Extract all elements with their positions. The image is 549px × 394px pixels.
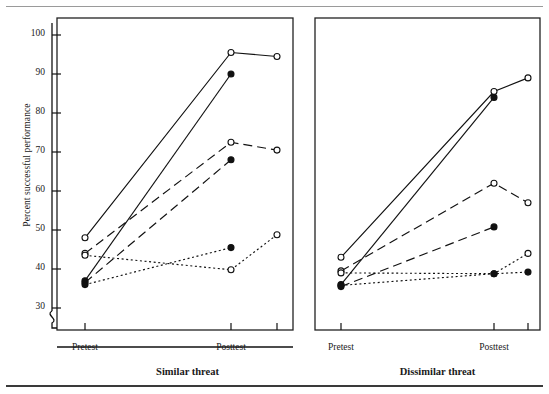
y-tick-label-90: 90 xyxy=(19,67,45,77)
data-point-dotted-filled-1-0 xyxy=(82,282,88,288)
y-tick-label-60: 60 xyxy=(19,184,45,194)
data-point-solid-open-1-2 xyxy=(274,54,280,60)
y-tick-label-30: 30 xyxy=(19,301,45,311)
data-point-dotted-filled-2-0 xyxy=(338,282,344,288)
data-point-solid-filled-1-1 xyxy=(228,71,234,77)
panel-frame-0 xyxy=(57,18,293,330)
data-point-dotted-filled-1-1 xyxy=(228,245,234,251)
figure-container: Percent successful performance 304050607… xyxy=(0,0,549,394)
series-line-dotted-filled-2 xyxy=(341,272,528,285)
panel-caption-dissimilar: Dissimilar threat xyxy=(330,366,545,377)
data-point-dashed-filled-1-1 xyxy=(228,157,234,163)
data-point-dotted-open-1-2 xyxy=(274,232,280,238)
data-point-solid-filled-2-1 xyxy=(491,94,497,100)
x-tick-label-p0-1: Posttest xyxy=(201,342,261,352)
page-rule-bottom xyxy=(6,385,543,387)
data-point-dashed-open-1-2 xyxy=(274,147,280,153)
data-point-dotted-open-2-2 xyxy=(525,250,531,256)
data-point-dotted-open-1-1 xyxy=(228,267,234,273)
data-point-solid-open-1-0 xyxy=(82,235,88,241)
series-line-solid-filled-2 xyxy=(341,97,494,284)
y-tick-label-80: 80 xyxy=(19,106,45,116)
series-line-solid-filled-1 xyxy=(85,74,231,281)
data-point-dotted-filled-2-1 xyxy=(491,271,497,277)
data-point-solid-open-2-2 xyxy=(525,75,531,81)
data-point-solid-open-1-1 xyxy=(228,50,234,56)
page-rule-top xyxy=(6,6,543,7)
panel-caption-similar: Similar threat xyxy=(80,366,295,377)
series-line-solid-open-2 xyxy=(341,78,528,257)
axis-break-zigzag-icon xyxy=(50,311,57,328)
x-tick-label-p1-0: Pretest xyxy=(311,342,371,352)
series-line-dotted-open-2 xyxy=(341,253,528,273)
x-tick-label-p0-0: Pretest xyxy=(55,342,115,352)
data-point-dashed-open-2-2 xyxy=(525,200,531,206)
data-point-dotted-filled-2-2 xyxy=(525,269,531,275)
y-axis-title: Percent successful performance xyxy=(22,60,32,270)
plot-svg xyxy=(0,0,549,394)
data-point-dashed-open-2-1 xyxy=(491,180,497,186)
x-tick-label-p1-1: Posttest xyxy=(464,342,524,352)
series-line-dotted-filled-1 xyxy=(85,248,231,285)
y-tick-label-70: 70 xyxy=(19,145,45,155)
data-point-dotted-open-2-0 xyxy=(338,270,344,276)
data-point-solid-open-2-0 xyxy=(338,254,344,260)
y-tick-label-100: 100 xyxy=(19,28,45,38)
series-line-dashed-open-1 xyxy=(85,142,277,253)
y-tick-label-50: 50 xyxy=(19,223,45,233)
data-point-solid-open-2-1 xyxy=(491,89,497,95)
y-tick-label-40: 40 xyxy=(19,262,45,272)
data-point-dashed-open-1-1 xyxy=(228,139,234,145)
data-point-dotted-open-1-0 xyxy=(82,252,88,258)
data-point-dashed-filled-2-1 xyxy=(491,224,497,230)
